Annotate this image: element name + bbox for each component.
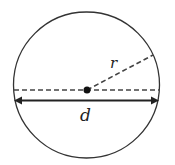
center-point xyxy=(84,87,91,94)
circle-outline xyxy=(14,12,160,158)
diameter-label: d xyxy=(80,105,91,125)
dashed-radius-line xyxy=(87,55,153,90)
radius-label: r xyxy=(110,54,118,72)
circle-diagram: r d xyxy=(0,0,175,165)
